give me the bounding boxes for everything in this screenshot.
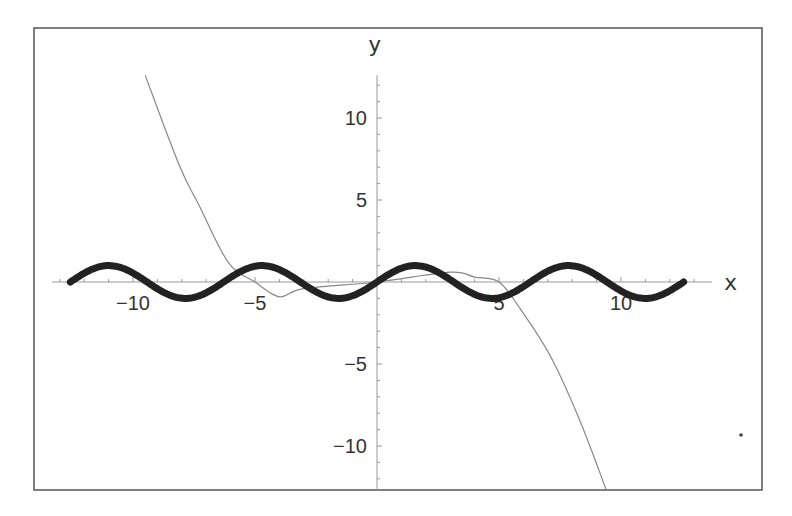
y-tick-label: 10 — [345, 107, 367, 129]
x-tick-label: −5 — [244, 292, 267, 314]
y-tick-label: −5 — [344, 353, 367, 375]
plot-frame — [34, 28, 762, 490]
stray-dot — [739, 433, 743, 437]
x-axis-label: x — [724, 270, 737, 295]
chart: −10−5510105−5−10 x y — [0, 0, 792, 516]
x-tick-label: −10 — [116, 292, 150, 314]
y-tick-label: 5 — [356, 189, 367, 211]
y-axis-label: y — [368, 32, 381, 57]
y-tick-label: −10 — [333, 435, 367, 457]
